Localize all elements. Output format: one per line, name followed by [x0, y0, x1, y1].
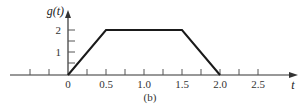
x-tick-label-1.5: 1.5	[175, 78, 189, 90]
x-tick-label-2.0: 2.0	[213, 78, 227, 90]
y-tick-label-2: 2	[56, 24, 62, 36]
y-tick-label-1: 1	[56, 46, 62, 58]
y-ticks	[68, 30, 75, 63]
figure-caption: (b)	[144, 91, 157, 104]
y-axis-arrow-icon	[65, 10, 71, 18]
x-ticks	[30, 69, 258, 75]
data-series-g	[68, 30, 220, 75]
x-tick-label-0: 0	[65, 78, 71, 90]
chart: g(t) t 2 1 0 0.5 1.0 1.5 2.0 2.5 (b)	[0, 0, 302, 111]
x-axis-label: t	[291, 78, 295, 92]
y-axis-label: g(t)	[47, 4, 64, 18]
x-tick-label-0.5: 0.5	[99, 78, 113, 90]
x-tick-label-1.0: 1.0	[137, 78, 151, 90]
x-tick-label-2.5: 2.5	[251, 78, 265, 90]
